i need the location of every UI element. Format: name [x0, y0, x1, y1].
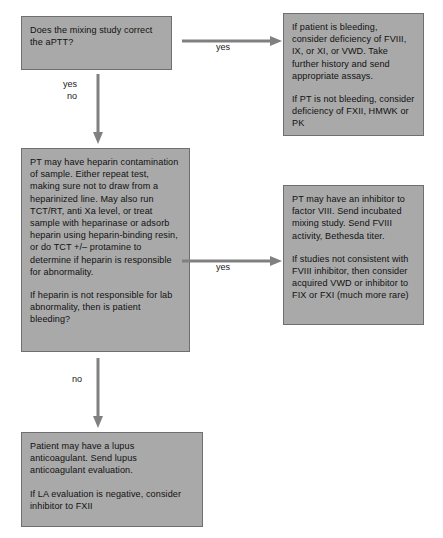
edge-heparin-to-lupus — [93, 358, 103, 428]
node-paragraph: If patient is bleeding, consider deficie… — [292, 21, 415, 82]
edge-label-yes-no-down: yes no — [63, 79, 77, 102]
node-lupus-anticoagulant-outcome[interactable]: Patient may have a lupus anticoagulant. … — [21, 432, 203, 527]
node-factor-viii-inhibitor-outcome[interactable]: PT may have an inhibitor to factor VIII.… — [283, 185, 424, 325]
edge-heparin-to-inhibitor — [182, 256, 282, 266]
node-factor-deficiency-outcome[interactable]: If patient is bleeding, consider deficie… — [283, 13, 424, 136]
flowchart-canvas: Does the mixing study correct the aPTT? … — [0, 0, 443, 538]
node-mixing-study-question[interactable]: Does the mixing study correct the aPTT? — [21, 16, 172, 70]
edge-mixing-study-to-heparin — [93, 74, 103, 144]
node-paragraph: Patient may have a lupus anticoagulant. … — [30, 440, 194, 477]
node-paragraph: PT may have heparin contamination of sam… — [30, 156, 181, 278]
node-paragraph: If studies not consistent with FVIII inh… — [292, 253, 415, 302]
edge-label-yes-top: yes — [216, 42, 230, 54]
node-paragraph: If LA evaluation is negative, consider i… — [30, 488, 194, 512]
edge-label-yes-mid: yes — [216, 262, 230, 274]
node-paragraph: PT may have an inhibitor to factor VIII.… — [292, 193, 415, 242]
edge-label-no-down: no — [72, 374, 82, 386]
node-heparin-contamination-step[interactable]: PT may have heparin contamination of sam… — [21, 148, 190, 352]
node-paragraph: If heparin is not responsible for lab ab… — [30, 289, 181, 326]
node-paragraph: If PT is not bleeding, consider deficien… — [292, 93, 415, 130]
node-paragraph: Does the mixing study correct the aPTT? — [30, 24, 163, 48]
edge-mixing-study-to-factor-deficiency — [182, 36, 282, 46]
